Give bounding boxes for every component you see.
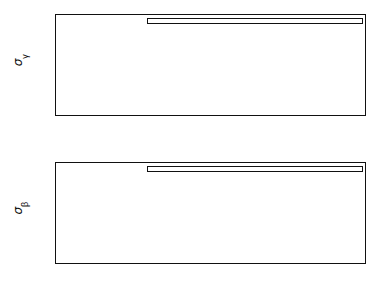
legend-top — [147, 18, 363, 24]
x-axis-tick-labels-top — [55, 117, 366, 130]
x-axis-tick-labels-bottom — [55, 265, 366, 278]
plot-area-bottom — [55, 162, 366, 264]
y-axis-tick-labels-top — [22, 14, 54, 116]
figure-root: σγ σβ — [0, 0, 382, 296]
plot-area-top — [55, 14, 366, 116]
curve-layer-bottom — [56, 163, 365, 263]
chart-panel-sigma-gamma: σγ — [0, 0, 382, 148]
curve-layer-top — [56, 15, 365, 115]
chart-panel-sigma-beta: σβ — [0, 148, 382, 296]
legend-bottom — [147, 166, 363, 172]
y-axis-tick-labels-bottom — [22, 162, 54, 264]
